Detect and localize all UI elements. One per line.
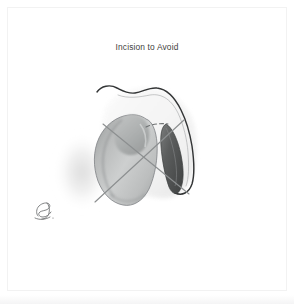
figure-card: Incision to Avoid — [0, 0, 294, 304]
artist-monogram — [30, 198, 60, 224]
bottom-band — [0, 295, 294, 304]
anatomical-illustration — [0, 0, 294, 304]
